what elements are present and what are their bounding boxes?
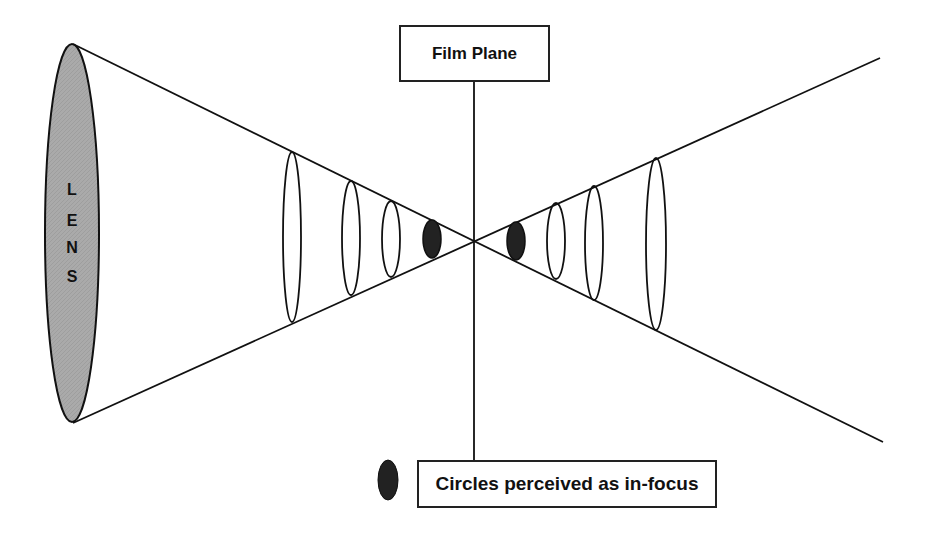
lens-letter-n: N <box>64 239 80 257</box>
circle-of-confusion-right-2 <box>585 186 603 300</box>
ray-top-lens-to-bottom-right <box>73 44 883 442</box>
legend-marker-icon <box>378 460 398 500</box>
circle-of-confusion-right-1 <box>547 203 565 279</box>
legend-label: Circles perceived as in-focus <box>417 460 717 508</box>
circle-of-confusion-left-2 <box>342 181 360 295</box>
lens-shape <box>45 44 99 422</box>
in-focus-circle-right <box>507 222 525 260</box>
circle-of-confusion-left-1 <box>283 152 301 322</box>
film-plane-label: Film Plane <box>399 25 550 82</box>
film-plane-text: Film Plane <box>432 44 517 64</box>
circle-of-confusion-left-3 <box>382 201 400 277</box>
lens-letter-e: E <box>64 212 80 230</box>
ray-bottom-lens-to-top-right <box>73 58 880 423</box>
in-focus-circle-left <box>423 220 441 258</box>
circle-of-confusion-right-3 <box>646 158 666 330</box>
legend-text: Circles perceived as in-focus <box>436 473 699 495</box>
lens-letter-s: S <box>64 268 80 286</box>
lens-letter-l: L <box>64 181 80 199</box>
